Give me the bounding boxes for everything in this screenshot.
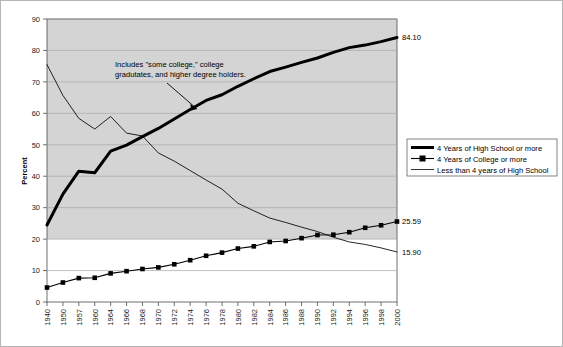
x-axis: 1940195019571960196419661968197019721974… — [43, 302, 402, 326]
education-attainment-line-chart: 0102030405060708090 19401950195719601964… — [1, 1, 563, 347]
y-axis-title: Percent — [20, 157, 29, 185]
series-marker — [77, 276, 82, 281]
chart-figure: 0102030405060708090 19401950195719601964… — [0, 0, 563, 347]
x-tick-label-2000: 2000 — [393, 309, 402, 326]
y-tick-label-90: 90 — [32, 15, 40, 24]
series-marker — [220, 250, 225, 255]
x-tick-label-1998: 1998 — [377, 309, 386, 326]
series-marker — [236, 246, 241, 251]
series-marker — [347, 230, 352, 235]
x-tick-label-1940: 1940 — [43, 309, 52, 326]
series-marker — [92, 275, 97, 280]
series-marker — [45, 285, 50, 290]
series-marker — [156, 265, 161, 270]
x-tick-label-1966: 1966 — [122, 309, 131, 326]
end-label-25.59: 25.59 — [402, 217, 421, 226]
y-tick-label-80: 80 — [32, 46, 40, 55]
plot-shaded-band — [47, 19, 397, 239]
legend-label-college: 4 Years of College or more — [437, 155, 527, 164]
y-tick-label-50: 50 — [32, 141, 40, 150]
x-tick-label-1976: 1976 — [202, 309, 211, 326]
x-tick-label-1990: 1990 — [313, 309, 322, 326]
x-tick-label-1960: 1960 — [91, 309, 100, 326]
series-marker — [61, 280, 66, 285]
series-marker — [172, 262, 177, 267]
y-tick-label-40: 40 — [32, 172, 40, 181]
x-tick-label-1970: 1970 — [154, 309, 163, 326]
y-tick-label-70: 70 — [32, 78, 40, 87]
series-marker — [283, 239, 288, 244]
y-tick-label-30: 30 — [32, 203, 40, 212]
y-tick-label-10: 10 — [32, 266, 40, 275]
legend-label-less-than-high-school: Less than 4 years of High School — [437, 166, 549, 175]
annotation-line-2: gradutates, and higher degree holders. — [115, 70, 246, 79]
x-tick-label-1996: 1996 — [361, 309, 370, 326]
x-tick-label-1986: 1986 — [281, 309, 290, 326]
series-marker — [188, 258, 193, 263]
series-marker — [363, 225, 368, 230]
x-tick-label-1980: 1980 — [234, 309, 243, 326]
series-marker — [204, 253, 209, 258]
series-marker — [315, 233, 320, 238]
x-tick-label-1974: 1974 — [186, 309, 195, 326]
x-tick-label-1950: 1950 — [59, 309, 68, 326]
x-tick-label-1994: 1994 — [345, 309, 354, 326]
series-marker — [299, 236, 304, 241]
legend-swatch-marker-square — [420, 156, 426, 162]
y-axis: 0102030405060708090 — [32, 15, 47, 307]
x-tick-label-1992: 1992 — [329, 309, 338, 326]
x-tick-label-1964: 1964 — [106, 309, 115, 326]
series-marker — [124, 269, 129, 274]
series-marker — [252, 244, 257, 249]
x-tick-label-1982: 1982 — [250, 309, 259, 326]
series-marker — [395, 219, 400, 224]
legend-label-high-school: 4 Years of High School or more — [437, 144, 542, 153]
x-tick-label-1988: 1988 — [297, 309, 306, 326]
x-tick-label-1978: 1978 — [218, 309, 227, 326]
series-marker — [108, 271, 113, 276]
end-label-84.10: 84.10 — [402, 33, 421, 42]
series-marker — [379, 223, 384, 228]
y-tick-label-20: 20 — [32, 235, 40, 244]
annotation-line-1: Includes "some college," college — [115, 60, 224, 69]
series-marker — [267, 240, 272, 245]
y-tick-label-60: 60 — [32, 109, 40, 118]
series-marker — [140, 267, 145, 272]
x-tick-label-1968: 1968 — [138, 309, 147, 326]
x-tick-label-1984: 1984 — [266, 309, 275, 326]
x-tick-label-1972: 1972 — [170, 309, 179, 326]
x-tick-label-1957: 1957 — [75, 309, 84, 326]
end-label-15.90: 15.90 — [402, 248, 421, 257]
y-tick-label-0: 0 — [36, 298, 40, 307]
legend: 4 Years of High School or more 4 Years o… — [407, 139, 557, 176]
